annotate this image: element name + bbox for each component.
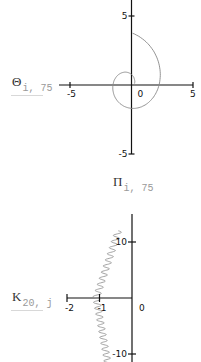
x-tick-label-2: 0 <box>139 303 145 313</box>
y-label-symbol-2: Κ <box>12 289 21 304</box>
y-axis-label-kappa: Κ20, j <box>12 290 52 304</box>
x-tick-label-2: -1 <box>98 303 107 313</box>
y-label-underline-2 <box>11 310 43 311</box>
series-oscillation-line <box>93 231 121 362</box>
y-label-subscript-2: 20, j <box>22 298 52 309</box>
y-tick-label-2: 10 <box>116 237 128 247</box>
y-tick-label-2: -10 <box>112 349 127 359</box>
x-tick-label-2: -2 <box>65 303 74 313</box>
